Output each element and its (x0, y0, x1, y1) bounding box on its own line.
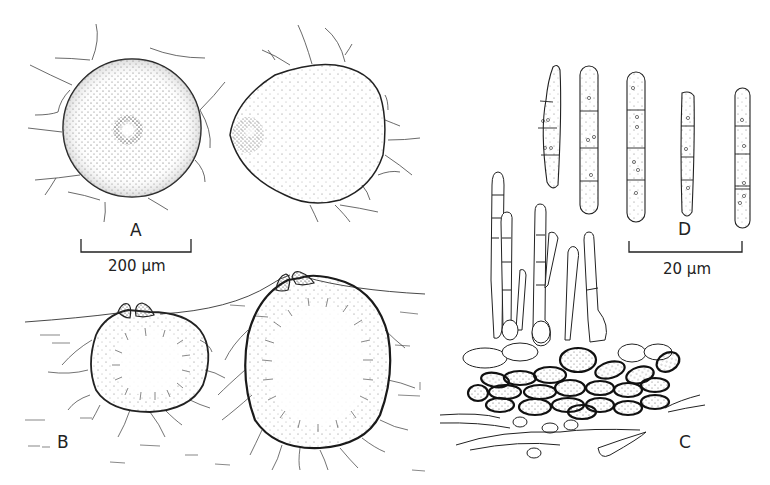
ascospore-2 (580, 66, 598, 214)
ascospore-3 (627, 72, 645, 222)
ascospore-1 (538, 66, 561, 188)
illustration-canvas (0, 0, 770, 485)
panel-label-d: D (678, 219, 691, 239)
panel-b-ascoma-left-section (48, 303, 225, 437)
figure-plate: A 200 µm B C D 20 µm (0, 0, 770, 485)
panel-d-ascospores (538, 66, 750, 228)
panel-label-a: A (130, 220, 142, 240)
panel-label-b: B (57, 432, 69, 452)
scale-bar-d (629, 241, 742, 252)
ascospore-5 (735, 88, 750, 228)
scale-bar-d-text: 20 µm (663, 260, 711, 278)
ascospore-4 (681, 92, 694, 216)
panel-b-ascoma-right-section (218, 272, 415, 470)
panel-a-ascoma-right (230, 25, 420, 222)
scale-bar-a-text: 200 µm (108, 257, 166, 275)
panel-a-ascoma-left (28, 24, 225, 222)
panel-label-c: C (679, 432, 691, 452)
scale-bar-a (81, 239, 191, 252)
